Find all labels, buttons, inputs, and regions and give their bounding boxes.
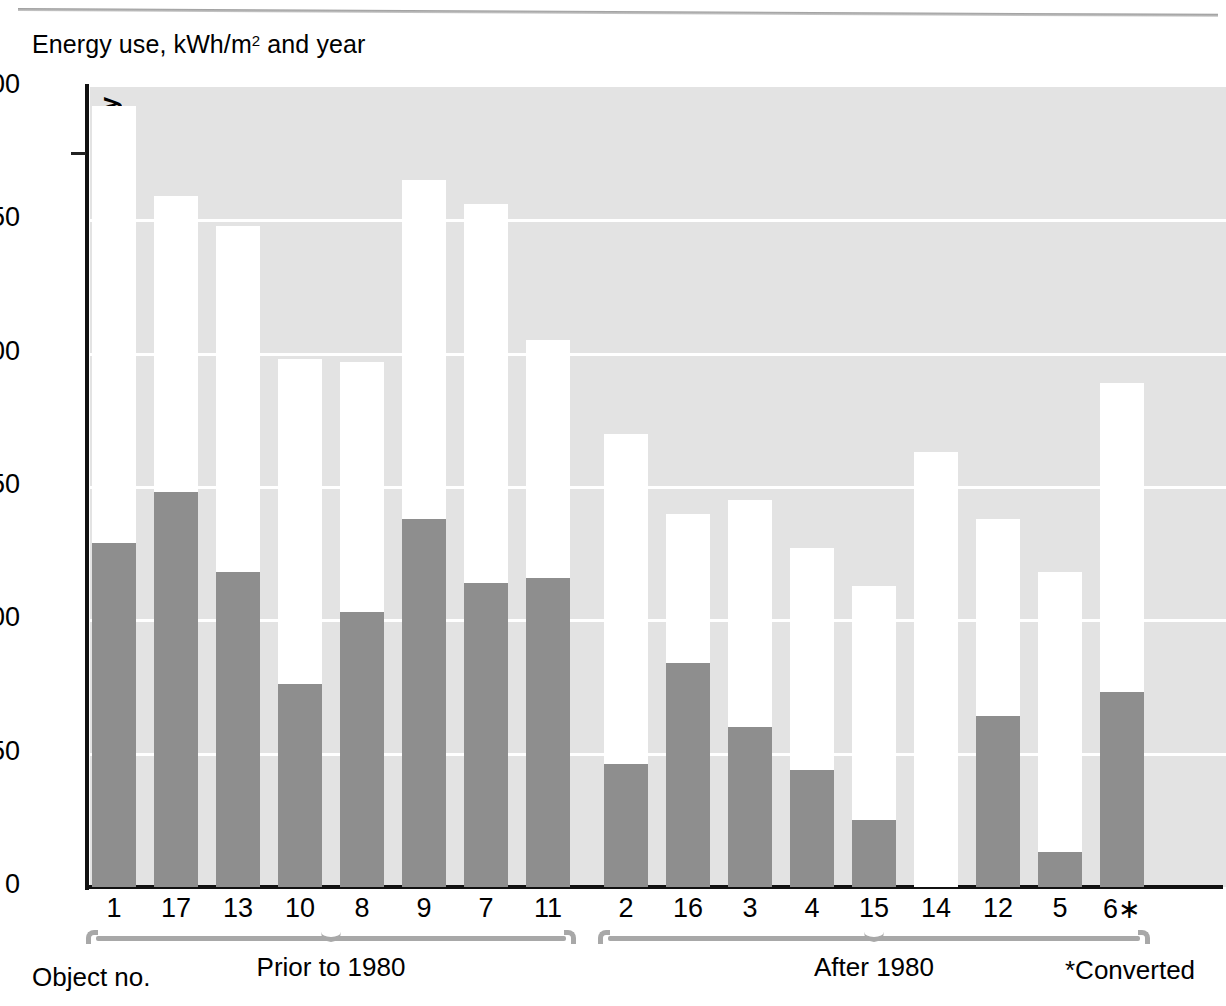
x-tick-label-9: 9 (392, 893, 456, 924)
bar-segment-electricity (604, 434, 648, 765)
bar-segment-district-heating (216, 572, 260, 887)
bar-segment-electricity (340, 362, 384, 613)
bar-segment-district-heating (852, 820, 896, 887)
bar-object-9 (402, 180, 446, 887)
bar-segment-district-heating (92, 543, 136, 887)
x-tick-label-6: 6∗ (1090, 893, 1154, 925)
x-axis-caption: Object no. (32, 962, 151, 993)
bar-segment-electricity (402, 180, 446, 519)
bar-object-15 (852, 586, 896, 887)
x-tick-label-3: 3 (718, 893, 782, 924)
bar-segment-district-heating (464, 583, 508, 887)
chart-title-superscript: 2 (252, 32, 260, 49)
x-tick-label-2: 2 (594, 893, 658, 924)
bracket-group-1 (86, 930, 576, 948)
bar-object-13 (216, 226, 260, 887)
bar-object-16 (666, 514, 710, 887)
x-tick-label-15: 15 (842, 893, 906, 924)
bar-segment-electricity (154, 196, 198, 492)
converted-footnote: *Converted (1065, 955, 1195, 986)
x-tick-label-13: 13 (206, 893, 270, 924)
bar-object-1 (92, 106, 136, 887)
y-tick-label-250: 250 (0, 202, 20, 233)
bar-segment-electricity (666, 514, 710, 663)
bar-segment-district-heating (728, 727, 772, 887)
x-tick-label-14: 14 (904, 893, 968, 924)
x-tick-number: 6 (1103, 894, 1118, 924)
asterisk-marker: ∗ (1118, 894, 1141, 924)
chart-title-main: Energy use, kWh/m (32, 30, 252, 58)
x-tick-label-16: 16 (656, 893, 720, 924)
y-tick-label-200: 200 (0, 336, 20, 367)
y-tick-label-50: 50 (0, 736, 20, 767)
bar-segment-district-heating (1100, 692, 1144, 887)
x-tick-label-5: 5 (1028, 893, 1092, 924)
gridline-250 (90, 219, 1226, 222)
bar-segment-electricity (976, 519, 1020, 716)
bar-segment-district-heating (666, 663, 710, 887)
bar-segment-district-heating (340, 612, 384, 887)
gridline-200 (90, 353, 1226, 356)
bar-segment-district-heating (1038, 852, 1082, 887)
x-tick-label-11: 11 (516, 893, 580, 924)
x-tick-label-17: 17 (144, 893, 208, 924)
bracket-tip-left (86, 930, 98, 944)
bar-segment-electricity (852, 586, 896, 821)
chart-title-rest: and year (260, 30, 365, 58)
bar-object-10 (278, 359, 322, 887)
y-tick-label-100: 100 (0, 602, 20, 633)
bar-object-17 (154, 196, 198, 887)
bar-object-7 (464, 204, 508, 887)
bar-segment-electricity (790, 548, 834, 769)
bar-segment-electricity (526, 340, 570, 577)
bracket-tip-left (598, 930, 610, 944)
bar-segment-electricity (278, 359, 322, 684)
bar-segment-district-heating (154, 492, 198, 887)
bar-segment-district-heating (402, 519, 446, 887)
bar-object-3 (728, 500, 772, 887)
x-tick-label-8: 8 (330, 893, 394, 924)
x-tick-label-7: 7 (454, 893, 518, 924)
bracket-group-2 (598, 930, 1150, 948)
y-tick-label-150: 150 (0, 469, 20, 500)
bar-object-11 (526, 340, 570, 887)
bar-object-14 (914, 452, 958, 887)
bar-object-2 (604, 434, 648, 887)
y-tick-label-0: 0 (0, 869, 20, 900)
bar-object-6 (1100, 383, 1144, 887)
bar-segment-district-heating (278, 684, 322, 887)
bar-segment-district-heating (604, 764, 648, 887)
bar-object-5 (1038, 572, 1082, 887)
bar-segment-electricity (216, 226, 260, 573)
bracket-tip-right (564, 930, 576, 944)
bracket-tip-right (1138, 930, 1150, 944)
y-axis-minor-tick (71, 152, 86, 155)
bar-segment-electricity (92, 106, 136, 543)
bar-segment-district-heating (976, 716, 1020, 887)
bar-segment-electricity (914, 452, 958, 887)
bar-segment-electricity (464, 204, 508, 583)
bar-object-8 (340, 362, 384, 887)
x-tick-label-12: 12 (966, 893, 1030, 924)
bar-object-4 (790, 548, 834, 887)
header-rule (18, 8, 1218, 17)
y-tick-label-300: 300 (0, 69, 20, 100)
bar-segment-electricity (1038, 572, 1082, 852)
bar-segment-electricity (1100, 383, 1144, 692)
bar-segment-electricity (728, 500, 772, 727)
x-tick-label-10: 10 (268, 893, 332, 924)
gridline-150 (90, 486, 1226, 489)
bar-segment-district-heating (526, 578, 570, 887)
chart-title: Energy use, kWh/m2 and year (32, 30, 365, 59)
bar-segment-district-heating (790, 770, 834, 887)
x-tick-label-1: 1 (82, 893, 146, 924)
y-axis-line (85, 84, 89, 890)
bar-object-12 (976, 519, 1020, 887)
x-tick-label-4: 4 (780, 893, 844, 924)
bracket-label-group-1: Prior to 1980 (86, 952, 576, 983)
